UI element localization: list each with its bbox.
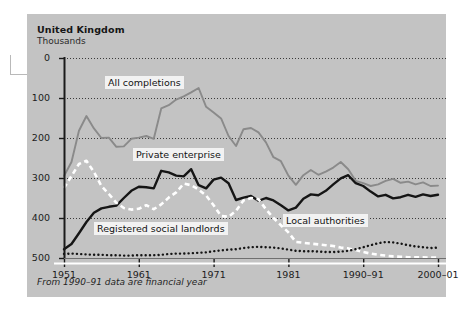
- axis-ticks: [59, 59, 439, 268]
- series-line-all-completions: [64, 88, 438, 186]
- y-tick-label: 300: [24, 172, 50, 183]
- series-line-private-enterprise: [64, 169, 438, 249]
- series-label-all-completions: All completions: [105, 76, 184, 89]
- series-line-registered-social-landlords: [64, 242, 438, 256]
- y-tick-label: 100: [24, 92, 50, 103]
- y-tick-label: 400: [24, 212, 50, 223]
- x-tick-label: 1981: [276, 269, 300, 280]
- series-label-private-enterprise: Private enterprise: [133, 148, 224, 161]
- plot-area: [0, 0, 467, 315]
- y-tick-label: 200: [24, 132, 50, 143]
- series-line-local-authorities: [64, 161, 438, 258]
- x-tick-label: 1990–91: [343, 269, 384, 280]
- y-tick-label: 0: [24, 52, 50, 63]
- series-label-registered-social-landlords: Registered social landlords: [94, 222, 228, 235]
- series-label-local-authorities: Local authorities: [283, 214, 368, 227]
- chart-footnote: From 1990–91 data are financial year: [37, 277, 207, 287]
- x-tick-label: 2000–01: [417, 269, 458, 280]
- y-tick-label: 500: [24, 252, 50, 263]
- figure-root: United Kingdom Thousands 500400300200100…: [0, 0, 467, 315]
